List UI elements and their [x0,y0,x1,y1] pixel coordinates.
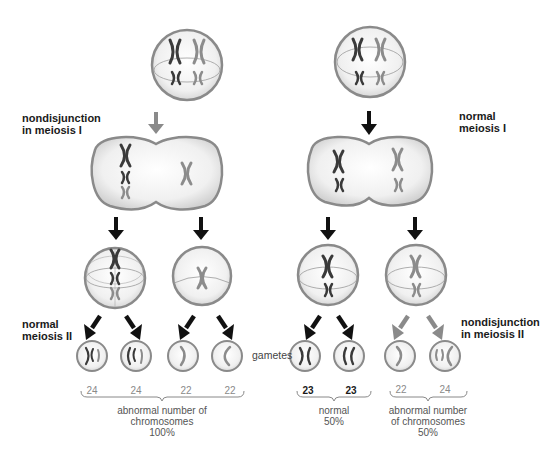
dividing-cell-left [92,137,222,209]
arrow-down-icon [193,217,209,240]
gamete-count: 23 [296,385,320,396]
summary-left: abnormal number of chromosomes 100% [102,405,222,438]
dividing-cell-right [308,137,432,206]
arrow-down-icon [320,217,336,240]
gamete-right-2 [334,341,364,371]
gamete-count: 24 [124,385,148,396]
summary-abnormal-right: abnormal number of chromosomes 50% [383,405,473,438]
label-gametes: gametes [252,349,292,361]
label-nondisjunction-meiosis-ii: nondisjunction in meiosis II [461,316,540,340]
arrow-diagonal-icon [178,316,194,340]
meiosis-ii-cell-right-2 [386,245,446,305]
gamete-count: 22 [218,385,242,396]
meiosis-ii-cell-left-2 [173,247,231,305]
arrow-down-icon [108,217,124,240]
arrow-down-icon [148,112,164,134]
gamete-right-1 [290,341,320,371]
gamete-count: 23 [339,385,363,396]
arrow-diagonal-icon [84,316,100,340]
gamete-left-3 [168,341,198,371]
gamete-left-4 [212,341,242,371]
gamete-left-2 [121,341,151,371]
parent-cell-right [335,27,405,97]
gamete-right-4 [430,341,460,371]
arrow-diagonal-icon [218,316,234,340]
arrow-diagonal-icon [126,316,142,340]
arrow-down-icon [407,217,423,240]
arrow-diagonal-icon [338,316,354,340]
parent-cell-left [152,30,222,100]
meiosis-ii-cell-right-1 [298,245,358,305]
arrow-down-icon [361,111,377,135]
gamete-count: 24 [433,384,457,395]
label-nondisjunction-meiosis-i: nondisjunction in meiosis I [22,112,101,136]
gamete-count: 22 [174,385,198,396]
arrow-diagonal-icon [304,316,320,340]
meiosis-ii-cell-left-1 [85,248,145,308]
label-normal-meiosis-i: normal meiosis I [459,110,506,134]
label-normal-meiosis-ii: normal meiosis II [22,318,72,342]
summary-normal: normal 50% [299,405,369,427]
arrow-diagonal-icon [428,316,444,340]
arrow-diagonal-icon [392,316,408,340]
gamete-count: 22 [389,384,413,395]
gamete-count: 24 [80,385,104,396]
gamete-right-3 [385,341,415,371]
gamete-left-1 [77,341,107,371]
